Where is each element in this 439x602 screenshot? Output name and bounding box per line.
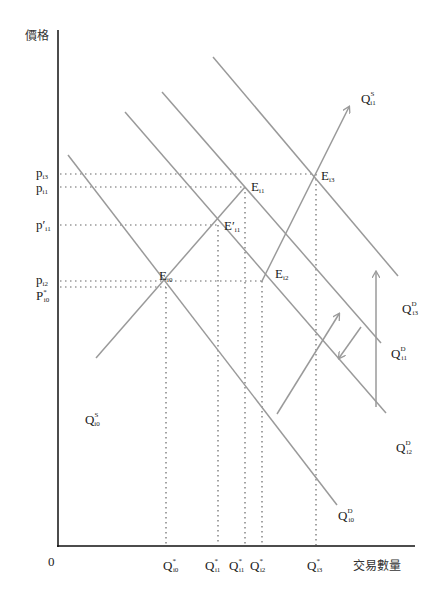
- x-axis-label: 交易數量: [353, 558, 401, 573]
- quantity-label-q-star-i1-b: Q*i1: [229, 557, 245, 574]
- curve-label-demand-i0: QDi0: [338, 507, 354, 524]
- curve-label-demand-i1: QDi1: [391, 345, 407, 362]
- price-label-p-star-i0: P*i0: [36, 288, 50, 304]
- supply-curve-i0: [96, 187, 245, 358]
- curve-label-demand-i2: QDi2: [396, 439, 412, 456]
- curve-label-supply-i0: QSi0: [85, 411, 100, 428]
- y-axis-label: 價格: [25, 28, 49, 43]
- quantity-label-q-star-i1-a: Q*i1: [205, 557, 221, 574]
- quantity-label-q-star-i3: Q*i3: [307, 557, 323, 574]
- equilibrium-label-e-i1: Ei1: [251, 179, 265, 195]
- curve-label-supply-i1: QSi1: [361, 90, 376, 107]
- price-label-p-i1: pi1: [36, 180, 48, 196]
- quantity-label-q-star-i2: Q*i2: [250, 557, 266, 574]
- equilibrium-label-e-i2: Ei2: [275, 266, 289, 282]
- shift-arrow-up-right: [277, 314, 339, 414]
- equilibrium-label-e-i0: Ei0: [159, 268, 173, 284]
- price-label-p-prime-i1: p′i1: [36, 217, 51, 233]
- demand-curve-i0: [68, 155, 337, 505]
- equilibrium-label-e-prime-i1: E′i1: [224, 218, 241, 234]
- demand-curve-i2: [125, 112, 386, 413]
- quantity-label-q-star-i0: Q*i0: [163, 557, 179, 574]
- supply-curve-i1: [262, 107, 349, 281]
- origin-label: 0: [48, 554, 55, 569]
- price-label-p-i2: pi2: [36, 272, 48, 288]
- equilibrium-label-e-i3: Ei3: [321, 168, 335, 184]
- price-label-p-i3: pi3: [36, 165, 48, 181]
- shift-arrow-down-left: [339, 327, 361, 358]
- supply-demand-diagram: 價格 交易數量 0 pi3 pi1 p′i1 pi2 P*i0 Q*i0 Q*i…: [0, 0, 439, 602]
- curve-label-demand-i3: QDi3: [402, 300, 418, 317]
